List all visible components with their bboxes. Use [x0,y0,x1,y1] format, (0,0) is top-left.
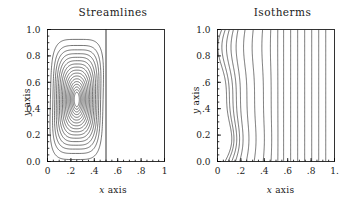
y-tick-label: 0.2 [26,130,40,140]
y-axis-symbol: y [22,111,32,116]
streamline-contours [50,39,104,159]
isotherm-contours [218,30,326,162]
x-tick-label: .4 [90,166,99,176]
y-tick-label: 1.0 [26,25,41,35]
x-axis-word: axis [105,185,127,195]
isotherm-contour [252,30,256,162]
x-tick-label: 0 [45,166,51,176]
y-axis-caption-streamlines: y axis [22,88,32,116]
y-tick-label: 0.8 [26,51,41,61]
panel-isotherms: Isotherms 1.00.8.6.40.20.0 0.2.4.6.81. x… [182,0,363,199]
isotherms-plot: 1.00.8.6.40.20.0 0.2.4.6.81. [182,0,363,199]
y-tick-label: 0.8 [196,51,211,61]
y-axis-symbol: y [191,109,201,114]
plot-frame-isotherms [218,30,335,162]
x-tick-label: .4 [260,166,269,176]
y-tick-label: 0.6 [26,78,41,88]
axis-ticks-isotherms [218,30,335,162]
x-axis-caption-isotherms: x axis [182,185,363,195]
x-tick-label: 1. [330,166,339,176]
streamline-contour [67,76,87,123]
isotherm-contour [262,30,265,162]
isotherm-contour [231,30,240,162]
isotherm-contour [244,30,249,162]
isotherm-contour [222,30,234,162]
x-tick-labels-isotherms: 0.2.4.6.81. [215,166,339,176]
x-tick-label: 1 [162,166,168,176]
x-tick-label: .2 [67,166,76,176]
streamline-contour [74,92,79,107]
y-axis-caption-isotherms: y axis [191,86,201,114]
x-axis-word: axis [272,185,294,195]
y-tick-label: 0.0 [26,157,41,167]
x-tick-label: .8 [137,166,146,176]
y-tick-label: .6 [202,78,211,88]
x-tick-label: 0 [215,166,221,176]
streamline-contour [65,73,88,126]
x-tick-label: .6 [283,166,292,176]
y-tick-label: 0.0 [196,157,211,167]
isotherm-contour [270,30,271,162]
y-tick-label: 0.2 [196,130,210,140]
streamline-contour [70,84,83,114]
y-tick-label: 1.0 [196,25,211,35]
y-tick-label: .4 [202,104,211,114]
x-tick-label: .2 [237,166,246,176]
figure-container: Streamlines 1.00.80.60.40.20.0 0.2.4.6.8… [0,0,363,199]
x-tick-label: .8 [307,166,316,176]
y-axis-word: axis [191,86,201,108]
x-tick-labels-streamlines: 0.2.4.6.81 [45,166,168,176]
x-axis-caption-streamlines: x axis [0,185,204,195]
y-axis-word: axis [22,88,32,110]
x-tick-label: .6 [113,166,122,176]
panel-streamlines: Streamlines 1.00.80.60.40.20.0 0.2.4.6.8… [0,0,182,199]
